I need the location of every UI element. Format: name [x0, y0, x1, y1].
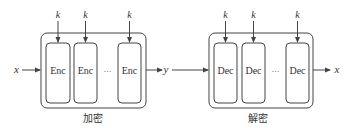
- enc-output-label: y: [163, 63, 169, 75]
- dec-key-label-1: k: [223, 9, 228, 20]
- dec-key-label-3: k: [295, 9, 300, 20]
- enc-block-3-label: Enc: [122, 65, 138, 76]
- dec-caption: 解密: [248, 112, 268, 124]
- dec-key-label-2: k: [251, 9, 256, 20]
- dec-block-3-label: Dec: [289, 65, 306, 76]
- enc-block-2-label: Enc: [78, 65, 94, 76]
- enc-block-1-label: Enc: [50, 65, 66, 76]
- cipher-diagram: x Enc Enc Enc ··· k k k y 加密 Dec Dec Dec…: [0, 0, 354, 132]
- enc-input-label: x: [13, 63, 19, 75]
- dec-output-label: x: [334, 63, 340, 75]
- dec-block-1-label: Dec: [217, 65, 234, 76]
- dec-ellipsis: ···: [272, 67, 280, 76]
- enc-key-label-1: k: [56, 9, 61, 20]
- encryption-group: x Enc Enc Enc ··· k k k y 加密: [13, 9, 169, 124]
- dec-block-2-label: Dec: [245, 65, 262, 76]
- enc-key-label-3: k: [127, 9, 132, 20]
- decryption-group: Dec Dec Dec ··· k k k x 解密: [172, 9, 340, 124]
- enc-key-label-2: k: [83, 9, 88, 20]
- enc-caption: 加密: [83, 112, 103, 124]
- enc-ellipsis: ···: [104, 67, 112, 76]
